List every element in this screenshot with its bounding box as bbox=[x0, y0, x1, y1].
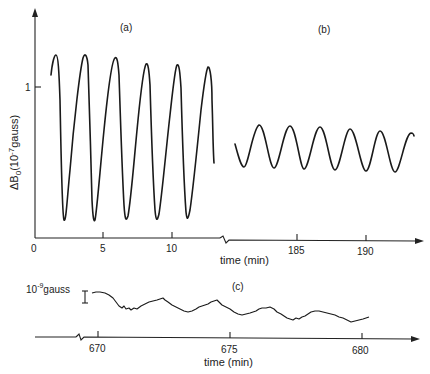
figure: 1 0 5 10 185 190 time (min) ΔB0(10-7gaus… bbox=[0, 0, 430, 374]
x-axis-arrow-icon bbox=[415, 238, 424, 244]
panel-label-c: (c) bbox=[232, 281, 244, 292]
panel-label-b: (b) bbox=[318, 24, 330, 35]
x-tick-label: 10 bbox=[166, 243, 178, 254]
trace-b bbox=[235, 125, 414, 172]
x-tick-label: 185 bbox=[288, 245, 305, 256]
top-axes bbox=[32, 8, 424, 244]
x-tick-label: 5 bbox=[100, 243, 106, 254]
panel-label-a: (a) bbox=[120, 22, 132, 33]
bottom-axes bbox=[35, 331, 420, 342]
x-axis-bottom-right bbox=[76, 334, 414, 340]
svg-text:ΔB0(10-7gauss): ΔB0(10-7gauss) bbox=[7, 115, 23, 190]
x-axis-bottom-arrow-icon bbox=[411, 336, 420, 342]
scale-bar-label: 10-9gauss bbox=[26, 282, 70, 295]
trace-a bbox=[51, 55, 214, 221]
y-axis-title: ΔB0(10-7gauss) bbox=[7, 115, 23, 190]
scale-bar bbox=[82, 291, 88, 303]
x-tick-label: 190 bbox=[357, 246, 374, 257]
x-tick-label: 675 bbox=[221, 344, 238, 355]
trace-c bbox=[92, 292, 369, 322]
x-tick-label: 670 bbox=[89, 343, 106, 354]
x-tick-label: 680 bbox=[352, 345, 369, 356]
x-axis-title-bottom: time (min) bbox=[204, 356, 253, 368]
y-axis-arrow-icon bbox=[32, 8, 38, 17]
x-tick-label: 0 bbox=[31, 243, 37, 254]
x-axis-break-right bbox=[220, 236, 418, 243]
y-tick-label: 1 bbox=[25, 82, 31, 93]
x-axis-title-top: time (min) bbox=[220, 254, 269, 266]
